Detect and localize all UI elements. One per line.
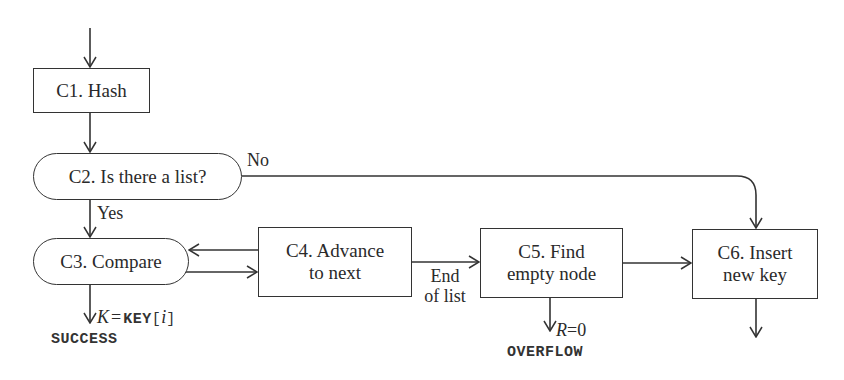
- edge-label-r-equals-0: R=0: [556, 300, 586, 340]
- node-c2-label: C2. Is there a list?: [69, 166, 207, 188]
- node-c6-insert-new-key: C6. Insert new key: [692, 229, 818, 299]
- terminal-success: SUCCESS: [51, 330, 118, 350]
- edge-label-k-equals-key-i: K=KEY[i]: [97, 287, 176, 330]
- r-equals-zero: =0: [567, 320, 586, 340]
- node-c3-label: C3. Compare: [60, 251, 161, 273]
- edge-label-end-of-list: End of list: [412, 266, 478, 306]
- node-c3-compare: C3. Compare: [33, 238, 189, 285]
- node-c4-advance-to-next: C4. Advance to next: [258, 227, 412, 297]
- key-array: KEY: [123, 311, 152, 328]
- equals-sign: =: [111, 307, 121, 327]
- node-c4-label: C4. Advance to next: [286, 240, 384, 284]
- edge-label-yes: Yes: [97, 203, 123, 223]
- node-c1-label: C1. Hash: [56, 80, 127, 102]
- node-c2-is-there-a-list: C2. Is there a list?: [33, 153, 242, 200]
- terminal-overflow: OVERFLOW: [507, 343, 583, 363]
- var-r: R: [556, 320, 567, 340]
- node-c1-hash: C1. Hash: [33, 68, 150, 113]
- var-k: K: [97, 307, 109, 327]
- bracket-close: ]: [166, 311, 176, 328]
- node-c5-find-empty-node: C5. Find empty node: [480, 228, 623, 298]
- node-c5-label: C5. Find empty node: [507, 241, 596, 285]
- arrow-c2-to-c6-no: [242, 176, 756, 228]
- bracket-open: [: [152, 311, 162, 328]
- node-c6-label: C6. Insert new key: [718, 242, 793, 286]
- edge-label-no: No: [247, 150, 269, 170]
